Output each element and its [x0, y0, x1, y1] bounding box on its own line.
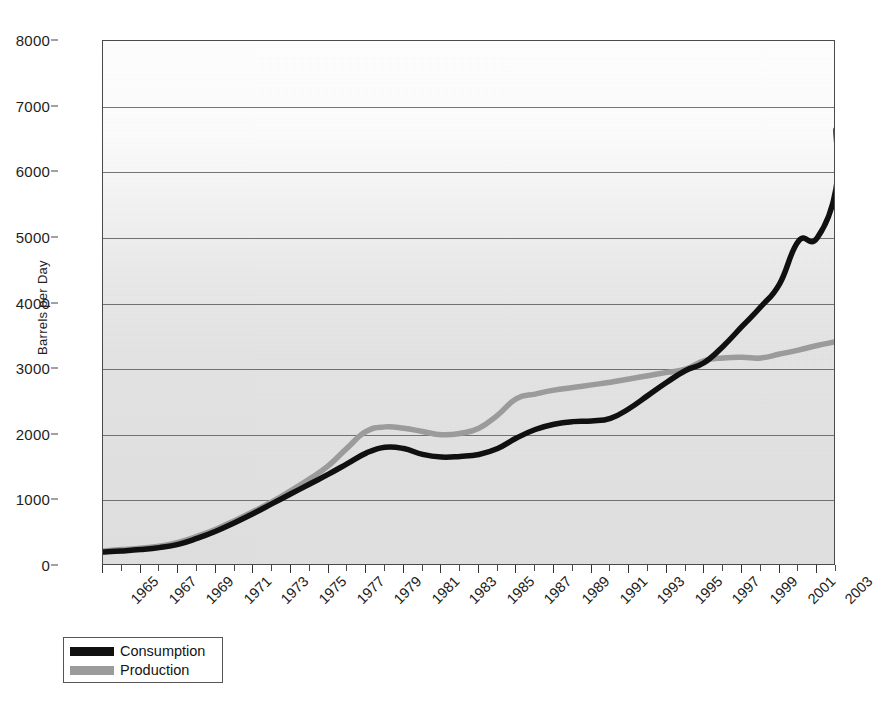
- legend-swatch-consumption: [70, 647, 114, 656]
- y-axis-tick-mark: [51, 171, 58, 172]
- y-axis-tick-mark: [51, 368, 58, 369]
- y-axis-tick-mark: [51, 40, 58, 41]
- y-axis-title: Barrels per Day: [35, 228, 50, 388]
- series-line-consumption: [103, 130, 835, 552]
- x-axis-tick-label: 2001: [804, 573, 838, 607]
- y-axis-tick-mark: [51, 499, 58, 500]
- y-axis-tick-label: 1000: [16, 491, 50, 508]
- x-axis-tick-label: 1973: [278, 573, 312, 607]
- x-axis-tick-label: 1967: [165, 573, 199, 607]
- x-axis-tick-label: 1987: [541, 573, 575, 607]
- x-axis-tick-label: 1983: [466, 573, 500, 607]
- x-axis-tick-label: 1975: [315, 573, 349, 607]
- series-lines: [103, 41, 835, 565]
- x-axis-tick-label: 1977: [353, 573, 387, 607]
- x-axis-tick-label: 1971: [240, 573, 274, 607]
- x-axis-tick-label: 2003: [842, 573, 876, 607]
- y-axis-tick-mark: [51, 236, 58, 237]
- legend-swatch-production: [70, 666, 114, 675]
- y-axis-tick-label: 7000: [16, 97, 50, 114]
- y-axis-tick-label: 8000: [16, 32, 50, 49]
- y-axis-tick-mark: [51, 433, 58, 434]
- plot-area: [102, 40, 835, 565]
- series-line-production: [103, 341, 835, 551]
- legend: Consumption Production: [63, 637, 223, 683]
- y-axis-tick-label: 6000: [16, 163, 50, 180]
- x-axis-tick-label: 1981: [428, 573, 462, 607]
- x-axis-tick-label: 1985: [503, 573, 537, 607]
- y-axis-tick-mark: [51, 302, 58, 303]
- chart-figure: 010002000300040005000600070008000 Barrel…: [0, 0, 879, 716]
- x-axis-tick-label: 1969: [203, 573, 237, 607]
- legend-label-production: Production: [120, 661, 189, 680]
- x-axis-tick-label: 1991: [616, 573, 650, 607]
- legend-label-consumption: Consumption: [120, 642, 205, 661]
- x-axis-labels: 1965196719691971197319751977197919811983…: [0, 565, 879, 645]
- x-axis-tick-label: 1979: [391, 573, 425, 607]
- x-axis-tick-label: 1993: [654, 573, 688, 607]
- legend-item-production: Production: [70, 661, 216, 680]
- x-axis-tick-label: 1999: [766, 573, 800, 607]
- x-axis-tick-label: 1995: [691, 573, 725, 607]
- x-axis-tick-label: 1997: [729, 573, 763, 607]
- x-axis-tick-label: 1965: [127, 573, 161, 607]
- y-axis-tick-label: 2000: [16, 425, 50, 442]
- y-axis-tick-mark: [51, 105, 58, 106]
- x-axis-tick-label: 1989: [579, 573, 613, 607]
- legend-item-consumption: Consumption: [70, 642, 216, 661]
